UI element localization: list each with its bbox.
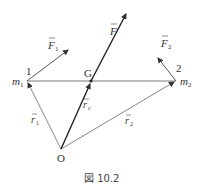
- rc-vector: [61, 84, 90, 149]
- label-G: G: [84, 67, 92, 79]
- label-F1: F 1: [47, 38, 59, 53]
- svg-text:2: 2: [188, 81, 192, 89]
- svg-text:m: m: [180, 75, 188, 87]
- svg-text:1: 1: [55, 45, 59, 53]
- label-2: 2: [176, 62, 182, 74]
- label-1: 1: [26, 65, 32, 77]
- svg-text:2: 2: [168, 43, 172, 51]
- svg-text:1: 1: [20, 81, 24, 89]
- label-r1: r 1: [31, 114, 39, 126]
- svg-text:c: c: [88, 105, 91, 111]
- svg-text:r: r: [31, 114, 35, 125]
- svg-text:m: m: [12, 75, 20, 87]
- label-F: F: [109, 24, 117, 37]
- svg-text:1: 1: [36, 120, 39, 126]
- svg-text:F: F: [47, 39, 55, 51]
- r2-vector: [61, 82, 174, 149]
- label-m2: m 2: [180, 75, 192, 89]
- label-r2: r 2: [125, 115, 133, 127]
- label-O: O: [57, 152, 65, 164]
- svg-text:F: F: [160, 37, 168, 49]
- F1-vector: [27, 50, 68, 81]
- point-G: [89, 79, 92, 82]
- svg-text:2: 2: [130, 121, 133, 127]
- figure-caption: 図 10.2: [84, 173, 119, 184]
- label-rc: r c: [83, 99, 91, 111]
- label-F2: F 2: [160, 36, 172, 51]
- center-of-mass-diagram: m 1 1 m 2 2 G O F F 1 F 2 r 1 r c r 2: [0, 0, 206, 190]
- F2-vector: [158, 58, 176, 81]
- label-m1: m 1: [12, 75, 24, 89]
- svg-text:r: r: [83, 99, 87, 110]
- svg-text:r: r: [125, 115, 129, 126]
- F-vector: [91, 14, 126, 81]
- svg-text:F: F: [109, 25, 117, 37]
